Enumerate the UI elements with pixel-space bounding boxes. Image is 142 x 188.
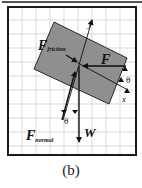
- theta-marker-right-icon: [72, 110, 78, 114]
- theta-label-right: θ: [126, 75, 130, 85]
- f-label: F: [100, 52, 111, 67]
- f-normal-label: Fnormal: [25, 128, 54, 143]
- weight-label: W: [84, 125, 97, 140]
- theta-label-bottom: θ: [64, 116, 68, 126]
- figure-caption: (b): [0, 162, 142, 179]
- y-axis-label: y: [87, 19, 92, 29]
- x-axis-label: x: [121, 94, 126, 104]
- free-body-diagram: Ffriction F Fnormal W y x θ θ: [0, 0, 142, 188]
- theta-marker-left-icon: [61, 110, 67, 114]
